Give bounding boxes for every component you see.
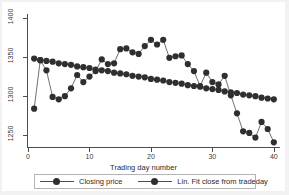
- y-axis-tick: [23, 18, 27, 19]
- figure-inner-panel: 1250130013501400010203040 Trading day nu…: [2, 2, 285, 191]
- legend-marker-icon: [138, 177, 172, 186]
- chart-legend: Closing price Lin. Fit close from traded…: [34, 174, 256, 189]
- x-axis-tick-label: 0: [18, 153, 38, 160]
- chart-figure: 1250130013501400010203040 Trading day nu…: [0, 0, 289, 195]
- linear-fit-markers: [31, 55, 277, 102]
- x-axis-tick-label: 10: [79, 153, 99, 160]
- y-axis-tick: [23, 96, 27, 97]
- x-axis-tick: [274, 148, 275, 152]
- x-axis-tick: [28, 148, 29, 152]
- x-axis-title: Trading day number: [2, 163, 285, 172]
- legend-entry-linear-fit: Lin. Fit close from tradeday: [138, 175, 267, 188]
- x-axis-tick: [89, 148, 90, 152]
- legend-label-linear-fit: Lin. Fit close from tradeday: [177, 177, 267, 186]
- closing-price-markers: [31, 37, 277, 146]
- x-axis-tick-label: 30: [202, 153, 222, 160]
- x-axis-tick-label: 40: [264, 153, 284, 160]
- legend-label-closing-price: Closing price: [79, 177, 122, 186]
- y-axis-tick-label: 1250: [7, 123, 14, 145]
- y-axis-tick: [23, 135, 27, 136]
- y-axis-tick-label: 1300: [7, 84, 14, 106]
- y-axis-tick-label: 1350: [7, 45, 14, 67]
- x-axis-tick-label: 20: [141, 153, 161, 160]
- legend-marker-icon: [40, 177, 74, 186]
- x-axis-tick: [151, 148, 152, 152]
- legend-entry-closing-price: Closing price: [40, 175, 122, 188]
- x-axis-line: [27, 147, 280, 148]
- plot-area: [28, 14, 280, 147]
- y-axis-tick: [23, 57, 27, 58]
- plot-canvas: [28, 14, 280, 147]
- y-axis-tick-label: 1400: [7, 5, 14, 27]
- x-axis-tick: [212, 148, 213, 152]
